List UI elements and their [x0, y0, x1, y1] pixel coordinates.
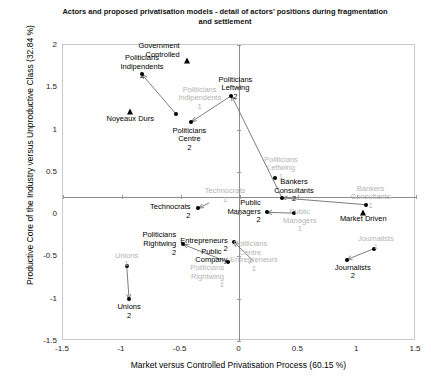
- movement-arrow: [127, 266, 129, 300]
- movement-arrow: [142, 74, 176, 114]
- x-axis-title: Market versus Controlled Privatisation P…: [62, 360, 415, 370]
- movement-arrow: [282, 198, 366, 205]
- x-tick: [416, 195, 417, 199]
- y-tick-label: 2: [53, 40, 57, 49]
- x-axis-tick-labels: -1.5-1-0.500.511.5: [62, 344, 415, 358]
- arrow-layer: [62, 44, 415, 340]
- movement-arrow: [347, 249, 374, 260]
- movement-arrow: [183, 244, 228, 262]
- x-tick-label: -0.5: [173, 344, 187, 353]
- movement-arrow: [267, 212, 294, 213]
- x-tick-label: 0.5: [292, 344, 303, 353]
- y-axis-tick-labels: -1.5-1-0.500.511.52: [0, 44, 57, 340]
- x-tick-label: 1: [354, 344, 358, 353]
- chart-title: Actors and proposed privatisation models…: [60, 7, 390, 27]
- x-tick-label: 1.5: [409, 344, 420, 353]
- movement-arrow: [231, 96, 282, 198]
- y-tick-label: 0: [53, 209, 57, 218]
- movement-arrow: [234, 242, 254, 261]
- x-tick-label: 0: [236, 344, 240, 353]
- chart-figure: Actors and proposed privatisation models…: [0, 0, 431, 389]
- y-tick-label: -0.5: [43, 251, 57, 260]
- movement-arrow: [191, 96, 231, 122]
- y-tick: [237, 341, 241, 342]
- y-tick-label: 1: [53, 124, 57, 133]
- x-tick-label: -1.5: [55, 344, 69, 353]
- movement-arrow: [198, 203, 209, 208]
- y-tick-label: -1: [50, 293, 57, 302]
- y-tick-label: 0.5: [46, 166, 57, 175]
- x-tick-label: -1: [117, 344, 124, 353]
- y-tick-label: 1.5: [46, 82, 57, 91]
